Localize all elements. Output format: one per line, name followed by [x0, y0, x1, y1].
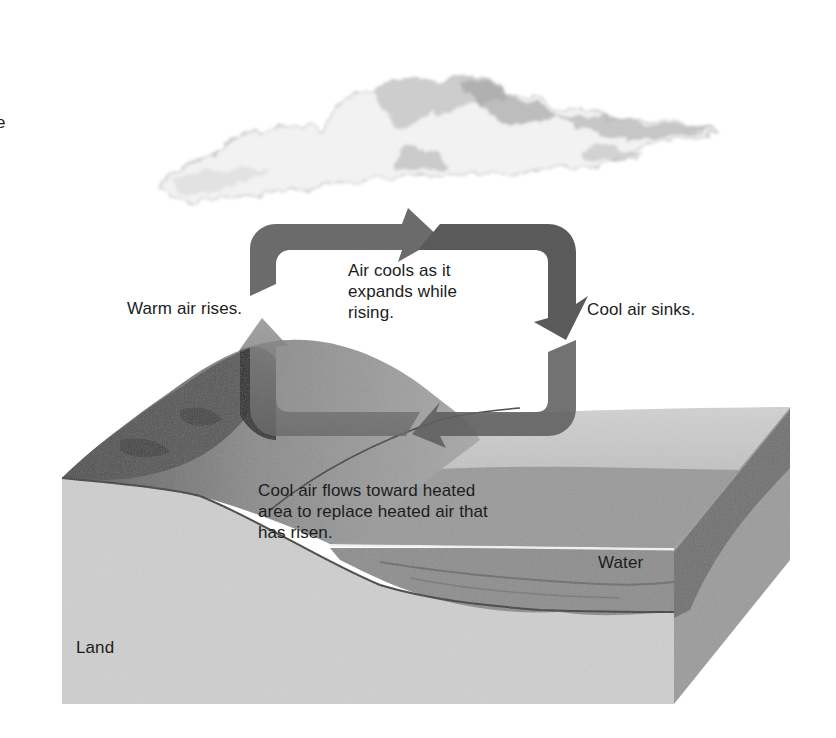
arrow-bottom-left-icon [412, 340, 576, 448]
partial-label: e [0, 112, 6, 133]
label-land: Land [76, 637, 114, 658]
label-cool-air-sinks: Cool air sinks. [587, 299, 695, 320]
convection-diagram: e Warm air rises. Air cools as it expand… [0, 0, 836, 738]
cloud-icon [160, 77, 718, 200]
label-cool-air-flows: Cool air flows toward heated area to rep… [258, 480, 488, 543]
convection-loop [238, 208, 588, 448]
label-warm-air-rises: Warm air rises. [127, 298, 242, 319]
label-air-cools: Air cools as it expands while rising. [348, 260, 457, 323]
label-water: Water [598, 552, 643, 573]
diagram-graphics [0, 0, 836, 738]
